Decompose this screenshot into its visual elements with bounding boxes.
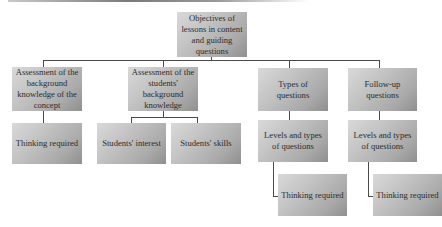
node-levels-types-2: Levels and types of questions	[348, 120, 417, 162]
node-thinking-required-3: Thinking required	[373, 174, 442, 216]
node-types-of-questions: Types of questions	[258, 68, 328, 111]
connector	[289, 110, 290, 120]
connector	[43, 110, 44, 123]
node-levels-types-1: Levels and types of questions	[258, 120, 328, 162]
node-assessment-students: Assessment of the students' background k…	[128, 67, 198, 111]
node-root: Objectives of lessons in content and gui…	[177, 12, 247, 57]
node-follow-up-questions: Follow-up questions	[348, 68, 417, 111]
node-label: Assessment of the background knowledge o…	[15, 67, 79, 111]
node-students-interest: Students' interest	[97, 123, 166, 164]
connector	[379, 110, 380, 120]
node-label: Assessment of the students' background k…	[131, 67, 195, 111]
connector	[131, 117, 198, 118]
connector	[289, 60, 290, 68]
node-label: Levels and types of questions	[261, 130, 325, 152]
connector	[163, 110, 164, 117]
node-label: Students' interest	[102, 138, 161, 149]
node-label: Thinking required	[281, 190, 343, 201]
top-rule	[8, 0, 308, 2]
connector	[273, 161, 274, 197]
node-label: Follow-up questions	[351, 79, 414, 101]
connector	[379, 60, 380, 68]
node-assessment-concept: Assessment of the background knowledge o…	[12, 67, 82, 111]
node-thinking-required-2: Thinking required	[278, 174, 347, 216]
node-label: Thinking required	[376, 190, 438, 201]
node-label: Objectives of lessons in content and gui…	[180, 13, 244, 57]
node-label: Students' skills	[180, 138, 231, 149]
node-students-skills: Students' skills	[171, 123, 241, 164]
node-label: Thinking required	[16, 138, 78, 149]
node-label: Types of questions	[261, 79, 325, 101]
connector	[43, 60, 380, 61]
node-label: Levels and types of questions	[351, 130, 414, 152]
connector	[368, 161, 369, 197]
node-thinking-required-1: Thinking required	[12, 123, 82, 164]
